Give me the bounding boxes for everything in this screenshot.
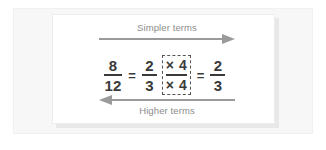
first-equals-sign: =: [127, 69, 137, 82]
middle-fraction-numerator: 2: [144, 58, 154, 73]
middle-fraction-bar: [142, 74, 157, 76]
middle-fraction: 2 3: [142, 58, 157, 93]
simpler-terms-arrow: [99, 34, 235, 44]
middle-fraction-denominator: 3: [144, 78, 154, 93]
right-fraction-numerator: 2: [213, 58, 223, 73]
left-fraction-denominator: 12: [104, 78, 123, 93]
figure-canvas: Simpler terms 8 12 = 2 3 × 4: [0, 0, 326, 150]
right-fraction: 2 3: [210, 58, 225, 93]
arrow-right-icon: [222, 34, 235, 44]
multiplier-denominator-row: × 4: [166, 78, 187, 92]
diagram-card: Simpler terms 8 12 = 2 3 × 4: [52, 14, 275, 124]
left-fraction-numerator: 8: [108, 58, 118, 73]
multiply-icon-denominator: ×: [166, 78, 174, 92]
second-equals-sign: =: [196, 69, 206, 82]
right-fraction-denominator: 3: [213, 78, 223, 93]
simpler-terms-label: Simpler terms: [99, 22, 235, 34]
higher-terms-group: Higher terms: [99, 95, 235, 125]
multiplier-denominator-value: 4: [179, 78, 187, 92]
multiplier-numerator-row: × 4: [166, 58, 187, 72]
multiplier-numerator-value: 4: [179, 58, 187, 72]
arrow-left-icon-shaft: [110, 99, 235, 101]
left-fraction-bar: [104, 74, 123, 76]
multiplier-fraction-bar: [166, 74, 187, 76]
higher-terms-arrow: [99, 95, 235, 105]
arrow-right-icon-shaft: [99, 38, 224, 40]
right-fraction-bar: [210, 74, 225, 76]
higher-terms-label: Higher terms: [99, 105, 235, 117]
left-fraction: 8 12: [104, 58, 123, 93]
multiply-icon-numerator: ×: [166, 58, 174, 72]
equation: 8 12 = 2 3 × 4 × 4 =: [53, 55, 276, 95]
multiplier-dashed-box: × 4 × 4: [162, 55, 191, 95]
simpler-terms-group: Simpler terms: [99, 22, 235, 52]
